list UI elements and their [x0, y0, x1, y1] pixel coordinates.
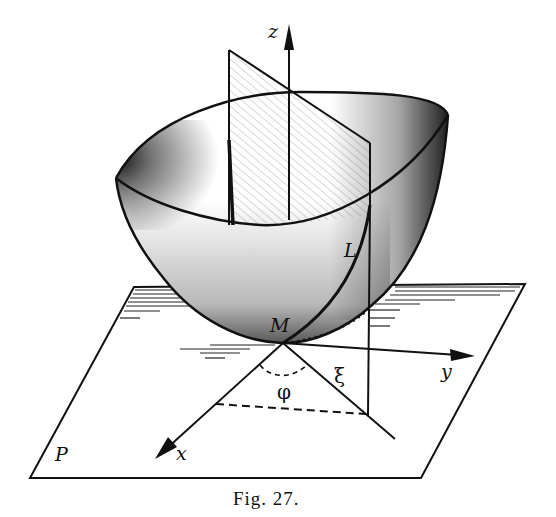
caption-prefix: Fig.	[233, 488, 267, 509]
xi-label: ξ	[334, 364, 345, 388]
plane-p-label: P	[54, 443, 69, 465]
curve-l-label: L	[343, 239, 357, 261]
caption-number: 27.	[273, 488, 300, 509]
figure-caption: Fig. 27.	[233, 488, 300, 509]
point-m-label: M	[269, 314, 290, 336]
y-axis-label: y	[440, 360, 452, 382]
cutting-plane	[229, 50, 370, 225]
angle-phi-label: φ	[277, 380, 291, 404]
paraboloid-diagram: z y x M L P φ ξ Fig. 27.	[0, 0, 556, 517]
z-axis-label: z	[267, 20, 279, 42]
x-axis-label: x	[176, 442, 187, 464]
